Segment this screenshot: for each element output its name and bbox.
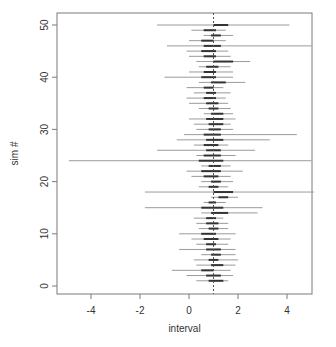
x-tick-label: -4 <box>87 305 96 316</box>
y-tick-label: 20 <box>39 176 50 188</box>
x-tick-label: 0 <box>186 305 192 316</box>
y-axis-title: sim # <box>9 141 20 165</box>
plot-frame <box>57 13 312 294</box>
x-axis: -4-2024 <box>87 294 291 316</box>
y-tick-label: 30 <box>39 123 50 135</box>
y-axis: 01020304050 <box>39 19 57 289</box>
x-tick-label: 4 <box>284 305 290 316</box>
x-axis-title: interval <box>168 323 200 334</box>
interval-segments <box>69 25 314 281</box>
x-tick-label: 2 <box>235 305 241 316</box>
y-tick-label: 40 <box>39 71 50 83</box>
y-tick-label: 50 <box>39 19 50 31</box>
y-tick-label: 0 <box>39 283 50 289</box>
x-tick-label: -2 <box>136 305 145 316</box>
interval-chart: -4-2024 01020304050 interval sim # <box>0 0 336 347</box>
y-tick-label: 10 <box>39 228 50 240</box>
